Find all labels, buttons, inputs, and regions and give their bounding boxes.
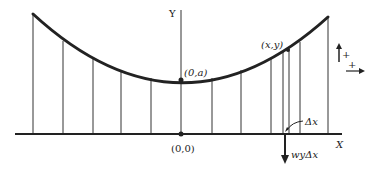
y-axis-label: Y — [168, 8, 176, 19]
delta-x-label: Δx — [304, 116, 318, 127]
point-label: (x,y) — [261, 39, 283, 50]
catenary-diagram: Y X (0,0) (0,a) (x,y) Δx wyΔx + + — [0, 0, 372, 171]
load-label: wyΔx — [291, 149, 318, 160]
origin-label: (0,0) — [171, 143, 195, 154]
x-axis-label: X — [335, 139, 344, 150]
horizontal-positive-label: + — [348, 59, 356, 70]
load-arrow-icon — [281, 134, 289, 164]
vertex-point — [179, 78, 184, 83]
curve-point — [286, 48, 290, 52]
vertex-label: (0,a) — [184, 67, 207, 78]
origin-point — [179, 132, 184, 137]
